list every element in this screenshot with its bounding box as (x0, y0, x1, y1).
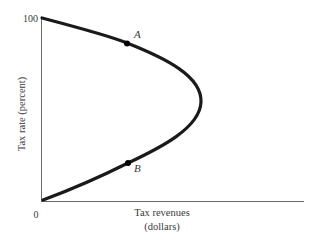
point-b-marker (125, 160, 131, 166)
point-a-marker (124, 41, 130, 47)
point-b-label: B (134, 162, 141, 174)
point-a-label: A (133, 28, 141, 40)
x-axis-title-line2: (dollars) (144, 221, 180, 233)
laffer-curve-chart: A B 100 0 Tax revenues (dollars) Tax rat… (0, 0, 319, 242)
x-axis-title-line1: Tax revenues (134, 207, 190, 218)
laffer-curve (42, 18, 201, 200)
origin-label: 0 (34, 209, 39, 220)
y-axis-title: Tax rate (percent) (16, 76, 28, 151)
y-tick-100: 100 (23, 13, 38, 24)
